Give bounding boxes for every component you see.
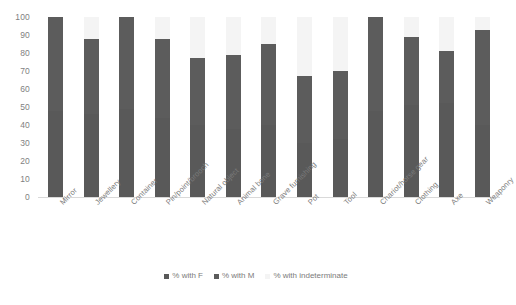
bar-mirror[interactable] [48,17,63,197]
bar-segment[interactable] [155,39,170,118]
bar-segment[interactable] [226,55,241,129]
bar-segment[interactable] [261,125,276,197]
bar-segment[interactable] [333,139,348,197]
legend-label: % with F [172,272,203,280]
bar-slot [74,17,110,197]
bar-weaponry[interactable] [475,17,490,197]
x-axis-tick: Pot [287,197,323,269]
x-axis-tick: Natural object [180,197,216,269]
bar-container[interactable] [119,17,134,197]
legend-item[interactable]: % with F [164,272,203,280]
bar-segment[interactable] [439,17,454,51]
y-axis-tick-label: 10 [20,175,30,184]
x-axis-tick: Jewellery [74,197,110,269]
chart-legend: % with F% with M% with indeterminate [0,272,512,280]
bar-segment[interactable] [475,30,490,125]
bar-slot [38,17,74,197]
bar-tool[interactable] [333,17,348,197]
bar-segment[interactable] [475,17,490,30]
bar-segment[interactable] [261,44,276,125]
bar-segment[interactable] [261,17,276,44]
y-axis-tick-label: 40 [20,121,30,130]
legend-label: % with indeterminate [273,272,347,280]
x-axis-tick: Chariot/horse gear [358,197,394,269]
x-axis-tick: Clothing [393,197,429,269]
bar-segment[interactable] [48,111,63,197]
bar-segment[interactable] [475,125,490,197]
bar-segment[interactable] [439,103,454,197]
bar-slot [109,17,145,197]
bar-segment[interactable] [84,114,99,197]
bar-slot [322,17,358,197]
x-axis-tick: Weaponry [464,197,500,269]
bar-segment[interactable] [226,129,241,197]
bar-segment[interactable] [368,17,383,111]
x-axis-tick: Axe [429,197,465,269]
legend-swatch-icon [265,274,270,279]
bar-segment[interactable] [333,71,348,139]
bar-pin-point-brooch[interactable] [155,17,170,197]
bar-segment[interactable] [297,76,312,143]
x-axis-tick: Container [109,197,145,269]
bar-segment[interactable] [190,58,205,125]
x-axis-tick: Grave furnishing [251,197,287,269]
bar-segment[interactable] [190,17,205,58]
y-axis-tick-label: 30 [20,139,30,148]
y-axis: 0102030405060708090100 [0,17,34,197]
bar-slot [145,17,181,197]
legend-swatch-icon [214,274,219,279]
y-axis-tick-label: 50 [20,103,30,112]
bar-segment[interactable] [119,17,134,109]
bar-group [38,17,500,197]
y-axis-tick-label: 20 [20,157,30,166]
x-axis-tick: Animal bone [216,197,252,269]
y-axis-tick-label: 100 [15,13,30,22]
bar-jewellery[interactable] [84,17,99,197]
x-axis-tick: Pin/point/brooch [145,197,181,269]
y-axis-tick-label: 0 [25,193,30,202]
bar-segment[interactable] [439,51,454,103]
bar-segment[interactable] [84,39,99,115]
bar-slot [464,17,500,197]
bar-segment[interactable] [226,17,241,55]
bar-slot [358,17,394,197]
y-axis-tick-label: 60 [20,85,30,94]
bar-segment[interactable] [404,17,419,37]
bar-segment[interactable] [333,17,348,71]
bar-slot [251,17,287,197]
bar-segment[interactable] [48,17,63,111]
legend-item[interactable]: % with indeterminate [265,272,347,280]
legend-label: % with M [222,272,254,280]
bar-axe[interactable] [439,17,454,197]
y-axis-tick-label: 70 [20,67,30,76]
y-axis-tick-label: 90 [20,31,30,40]
bar-segment[interactable] [155,17,170,39]
x-axis: MirrorJewelleryContainerPin/point/brooch… [38,197,500,269]
bar-segment[interactable] [297,17,312,76]
legend-item[interactable]: % with M [214,272,254,280]
plot-area [38,17,500,197]
bar-slot [429,17,465,197]
x-axis-tick: Mirror [38,197,74,269]
bar-chariot-horse-gear[interactable] [368,17,383,197]
bar-segment[interactable] [368,111,383,197]
bar-segment[interactable] [404,37,419,105]
x-axis-tick: Tool [322,197,358,269]
legend-swatch-icon [164,274,169,279]
bar-segment[interactable] [84,17,99,39]
bar-segment[interactable] [155,118,170,197]
y-axis-tick-label: 80 [20,49,30,58]
